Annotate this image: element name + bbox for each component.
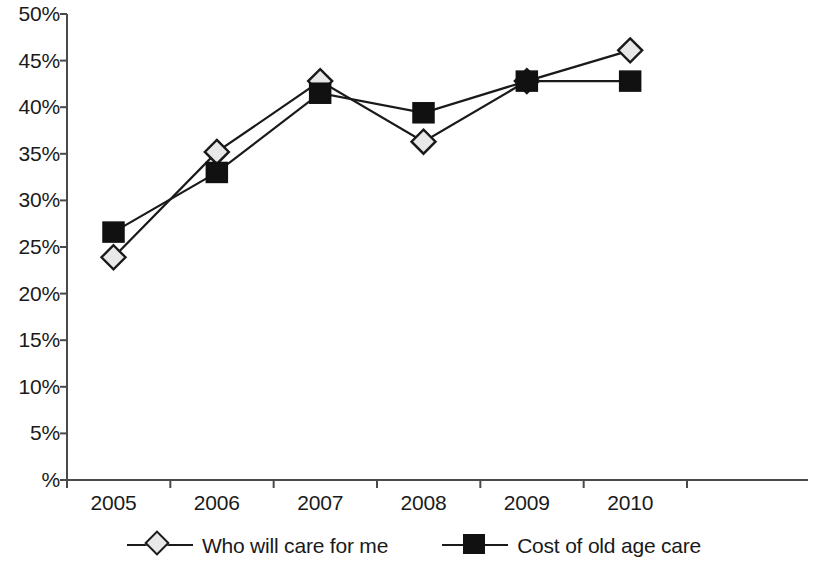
x-axis-labels: 200520062007200820092010	[0, 0, 828, 575]
legend-item-who-will-care-for-me[interactable]: Who will care for me	[127, 532, 388, 558]
diamond-marker-icon	[127, 532, 193, 558]
chart-legend: Who will care for me Cost of old age car…	[0, 532, 828, 558]
x-tick-label: 2010	[568, 492, 692, 513]
legend-item-label: Cost of old age care	[517, 535, 701, 556]
square-marker-icon	[442, 532, 508, 558]
chart-container: %5%10%15%20%25%30%35%40%45%50% 200520062…	[0, 0, 828, 575]
legend-item-cost-of-old-age-care[interactable]: Cost of old age care	[442, 532, 701, 558]
legend-item-label: Who will care for me	[202, 535, 388, 556]
